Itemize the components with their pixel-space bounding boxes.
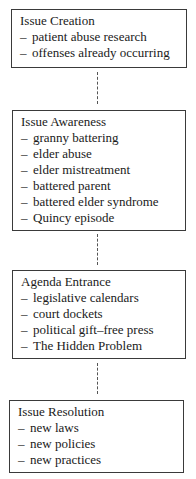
stage-box-issue-awareness: Issue Awareness –granny battering –elder… — [12, 110, 186, 231]
dash-bullet: – — [21, 210, 33, 226]
dash-bullet: – — [21, 306, 33, 322]
item-text: new policies — [30, 436, 95, 451]
dash-bullet: – — [20, 29, 32, 45]
item-text: Quincy episode — [33, 210, 114, 225]
item-text: legislative calendars — [33, 290, 139, 305]
list-item: –offenses already occurring — [20, 45, 186, 61]
dash-bullet: – — [21, 146, 33, 162]
connector-line — [97, 363, 98, 394]
list-item: –court dockets — [21, 306, 185, 322]
item-text: political gift–free press — [33, 322, 154, 337]
item-text: new practices — [30, 452, 101, 467]
dash-bullet: – — [20, 45, 32, 61]
list-item: –political gift–free press — [21, 322, 185, 338]
dash-bullet: – — [21, 178, 33, 194]
dash-bullet: – — [21, 130, 33, 146]
item-text: new laws — [30, 420, 79, 435]
list-item: –granny battering — [21, 130, 185, 146]
list-item: –The Hidden Problem — [21, 338, 185, 354]
list-item: –new policies — [18, 436, 183, 452]
list-item: –new laws — [18, 420, 183, 436]
list-item: –elder mistreatment — [21, 162, 185, 178]
stage-box-issue-creation: Issue Creation –patient abuse research –… — [11, 9, 187, 68]
stage-title: Issue Resolution — [18, 404, 183, 420]
item-text: elder abuse — [33, 146, 92, 161]
item-text: battered parent — [33, 178, 111, 193]
list-item: –patient abuse research — [20, 29, 186, 45]
connector-line — [97, 234, 98, 265]
stage-title: Issue Awareness — [21, 114, 185, 130]
dash-bullet: – — [18, 420, 30, 436]
dash-bullet: – — [21, 162, 33, 178]
stage-box-agenda-entrance: Agenda Entrance –legislative calendars –… — [12, 270, 186, 359]
item-text: patient abuse research — [32, 29, 147, 44]
item-text: elder mistreatment — [33, 162, 130, 177]
item-text: granny battering — [33, 130, 119, 145]
list-item: –Quincy episode — [21, 210, 185, 226]
item-text: battered elder syndrome — [33, 194, 159, 209]
item-text: The Hidden Problem — [33, 338, 142, 353]
dash-bullet: – — [18, 452, 30, 468]
list-item: –legislative calendars — [21, 290, 185, 306]
stage-box-issue-resolution: Issue Resolution –new laws –new policies… — [9, 400, 184, 473]
stage-title: Issue Creation — [20, 13, 186, 29]
dash-bullet: – — [18, 436, 30, 452]
item-text: court dockets — [33, 306, 103, 321]
dash-bullet: – — [21, 322, 33, 338]
dash-bullet: – — [21, 338, 33, 354]
stage-title: Agenda Entrance — [21, 274, 185, 290]
list-item: –battered parent — [21, 178, 185, 194]
dash-bullet: – — [21, 290, 33, 306]
connector-line — [97, 72, 98, 104]
list-item: –battered elder syndrome — [21, 194, 185, 210]
list-item: –new practices — [18, 452, 183, 468]
dash-bullet: – — [21, 194, 33, 210]
item-text: offenses already occurring — [32, 45, 170, 60]
list-item: –elder abuse — [21, 146, 185, 162]
